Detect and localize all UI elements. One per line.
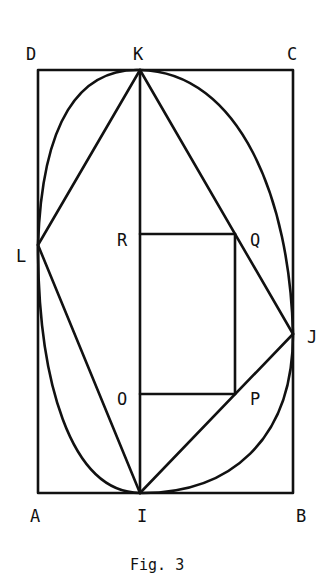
label-d: D — [26, 44, 36, 64]
label-l: L — [16, 246, 26, 266]
label-c: C — [287, 44, 297, 64]
line-kl — [38, 70, 140, 245]
line-kj — [140, 70, 293, 334]
label-q: Q — [250, 230, 260, 250]
label-o: O — [117, 389, 127, 409]
label-r: R — [117, 230, 128, 250]
label-a: A — [30, 506, 40, 526]
label-i: I — [137, 506, 147, 526]
rectangle-abcd — [38, 70, 293, 493]
label-k: K — [133, 44, 144, 64]
label-b: B — [296, 506, 306, 526]
figure-diagram: D K C L R Q J O P A I B Fig. 3 — [0, 0, 332, 581]
line-li — [38, 245, 140, 493]
line-ji — [140, 334, 293, 493]
curve-right — [140, 70, 293, 493]
figure-caption: Fig. 3 — [130, 556, 184, 574]
label-j: J — [307, 327, 317, 347]
label-p: P — [250, 389, 260, 409]
